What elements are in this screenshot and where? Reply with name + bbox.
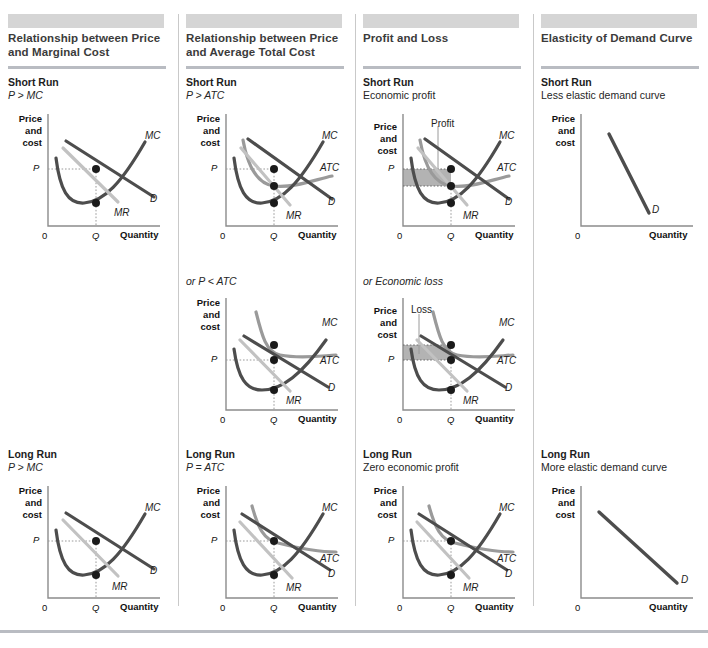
graph-sr-atc-below: Price and cost P 0 Q Quantity MC ATC D M… — [186, 292, 348, 432]
graph-lr-zero-profit: Price and cost P 0 Q Quantity MC ATC D M… — [363, 480, 525, 620]
price-tick: P — [33, 162, 39, 173]
caption-band — [186, 14, 342, 28]
caption-band — [8, 14, 164, 28]
profit-annotation: Profit — [431, 118, 454, 129]
quantity-tick: Q — [92, 602, 99, 613]
tangency-point — [270, 537, 278, 545]
equilibrium-point — [92, 165, 100, 173]
y-axis-label-1: Price — [8, 486, 42, 497]
curve-label-mc: MC — [145, 502, 161, 513]
y-axis-label-1: Price — [186, 114, 220, 125]
y-axis-label-1: Price — [186, 298, 220, 309]
y-axis-label-1: Price — [541, 486, 575, 497]
curve-label-mc: MC — [322, 502, 338, 513]
curve-label-mc: MC — [322, 317, 338, 328]
x-axis-label: Quantity — [298, 230, 337, 241]
origin-label: 0 — [42, 230, 47, 241]
panel-subheading: P > ATC — [186, 89, 224, 101]
panel-subheading: More elastic demand curve — [541, 461, 667, 473]
graph-lr-flat-demand: Price and cost 0 Quantity D — [541, 480, 703, 620]
quantity-tick: Q — [270, 230, 277, 241]
origin-label: 0 — [220, 414, 225, 425]
panel-subheading: Less elastic demand curve — [541, 89, 665, 101]
y-axis-label-2: and — [363, 134, 397, 145]
graph-lr-atc-tangent: Price and cost P 0 Q Quantity MC ATC D M… — [186, 480, 348, 620]
caption-rule — [541, 66, 699, 69]
curve-label-d: D — [150, 193, 157, 204]
curve-label-mc: MC — [499, 502, 515, 513]
panel-subheading: or P < ATC — [186, 275, 237, 287]
curve-label-atc: ATC — [497, 355, 516, 366]
mr-mc-point — [447, 199, 455, 207]
column-divider — [178, 14, 179, 606]
y-axis-label-3: cost — [541, 510, 575, 521]
y-axis-label-3: cost — [363, 510, 397, 521]
demand-curve — [421, 336, 505, 387]
demand-curve — [244, 336, 328, 387]
atc-point — [447, 341, 455, 349]
column-title: Profit and Loss — [363, 32, 525, 46]
graph-sr-loss: Price and cost Loss P 0 Q Quantity MC AT… — [363, 292, 525, 432]
price-point — [447, 165, 455, 173]
mr-mc-point — [92, 199, 100, 207]
price-tick: P — [211, 162, 217, 173]
mr-mc-point — [447, 386, 455, 394]
caption-band — [363, 14, 519, 28]
panel-subheading: or Economic loss — [363, 275, 443, 287]
panel-heading: Short Run — [363, 76, 414, 88]
mr-mc-point — [270, 571, 278, 579]
x-axis-label: Quantity — [298, 602, 337, 613]
mc-curve — [56, 514, 145, 575]
atc-point — [270, 182, 278, 190]
caption-rule — [363, 66, 521, 69]
quantity-tick: Q — [447, 602, 454, 613]
y-axis-label-3: cost — [8, 138, 42, 149]
curve-label-mc: MC — [499, 130, 515, 141]
curve-label-d: D — [505, 196, 512, 207]
y-axis-label-2: and — [186, 126, 220, 137]
column-title: Elasticity of Demand Curve — [541, 32, 703, 46]
curve-label-atc: ATC — [320, 162, 339, 173]
x-axis-label: Quantity — [120, 230, 159, 241]
y-axis-label-3: cost — [186, 138, 220, 149]
curve-label-mr: MR — [463, 582, 479, 593]
origin-label: 0 — [397, 230, 402, 241]
quantity-tick: Q — [92, 230, 99, 241]
mr-mc-point — [270, 386, 278, 394]
price-tick: P — [388, 353, 394, 364]
y-axis-label-2: and — [8, 498, 42, 509]
curve-label-atc: ATC — [320, 553, 339, 564]
curve-label-mc: MC — [145, 130, 161, 141]
panel-heading: Long Run — [363, 448, 412, 460]
curve-label-d: D — [328, 196, 335, 207]
curve-label-mr: MR — [463, 395, 479, 406]
column-price-average-total-cost: Relationship between Price and Average T… — [178, 0, 355, 620]
y-axis-label-1: Price — [363, 306, 397, 317]
y-axis-label-2: and — [186, 498, 220, 509]
x-axis-label: Quantity — [649, 602, 688, 613]
panel-subheading: P > MC — [8, 461, 43, 473]
curve-label-mc: MC — [499, 317, 515, 328]
curve-label-mr: MR — [112, 581, 128, 592]
panel-heading: Short Run — [186, 76, 237, 88]
graph-lr-mc: Price and cost P 0 Q Quantity MC D MR — [8, 480, 170, 620]
bottom-rule — [0, 630, 708, 633]
curve-label-d: D — [652, 204, 659, 215]
origin-label: 0 — [397, 602, 402, 613]
panel-heading: Long Run — [186, 448, 235, 460]
curve-label-atc: ATC — [497, 162, 516, 173]
demand-curve — [609, 134, 649, 213]
curve-label-d: D — [150, 565, 157, 576]
curve-label-atc: ATC — [320, 355, 339, 366]
y-axis-label-1: Price — [8, 114, 42, 125]
column-elasticity-of-demand: Elasticity of Demand Curve Short Run Les… — [533, 0, 708, 620]
column-divider — [533, 14, 534, 606]
atc-point — [270, 341, 278, 349]
y-axis-label-3: cost — [363, 146, 397, 157]
origin-label: 0 — [220, 230, 225, 241]
x-axis-label: Quantity — [649, 230, 688, 241]
price-tick: P — [33, 534, 39, 545]
column-title: Relationship between Price and Average T… — [186, 32, 348, 59]
axes — [581, 114, 693, 226]
price-tick: P — [211, 534, 217, 545]
